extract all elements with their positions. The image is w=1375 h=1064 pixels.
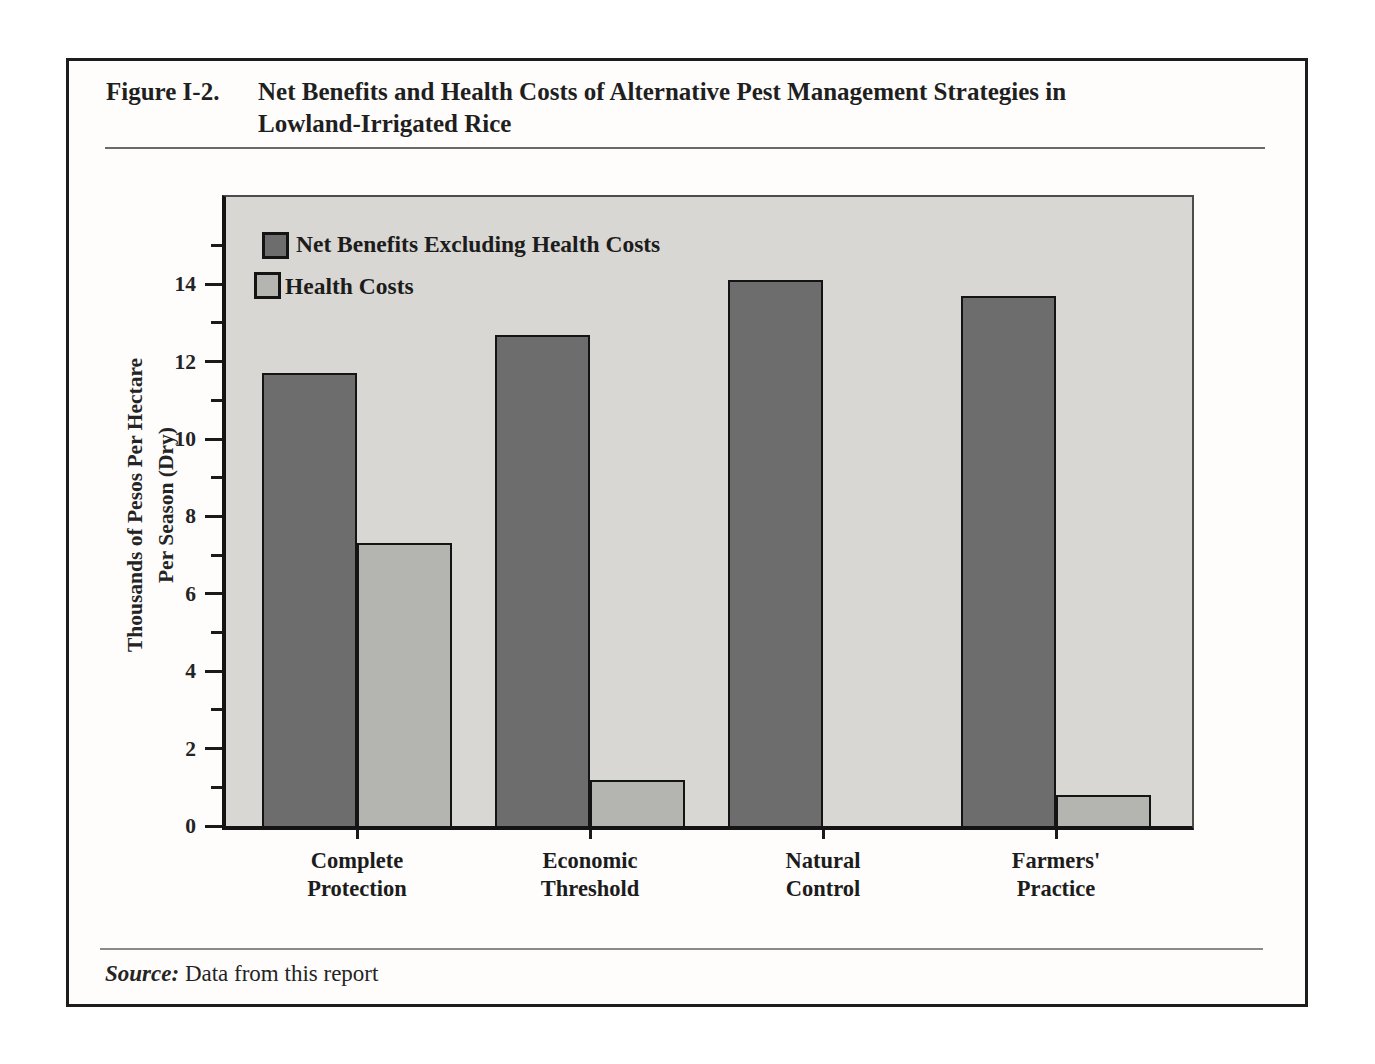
x-category-label-line: Threshold — [475, 875, 705, 903]
chart-layer: 02468101214CompleteProtectionEconomicThr… — [0, 0, 1375, 1064]
y-tick-minor — [211, 708, 222, 711]
x-category-label-3: Farmers'Practice — [941, 847, 1171, 903]
bar-net-benefits-0 — [262, 373, 357, 826]
y-tick-major — [205, 515, 222, 518]
source-label: Source: — [105, 961, 179, 986]
bar-net-benefits-3 — [961, 296, 1056, 826]
bar-net-benefits-2 — [728, 280, 823, 826]
y-tick-major — [205, 283, 222, 286]
x-category-label-line: Natural — [708, 847, 938, 875]
x-category-label-0: CompleteProtection — [242, 847, 472, 903]
bar-net-benefits-1 — [495, 335, 590, 826]
y-tick-major — [205, 592, 222, 595]
bar-health-costs-0 — [357, 543, 452, 826]
x-category-label-2: NaturalControl — [708, 847, 938, 903]
y-tick-label: 8 — [130, 502, 196, 530]
y-tick-minor — [211, 399, 222, 402]
y-tick-major — [205, 438, 222, 441]
y-tick-minor — [211, 631, 222, 634]
x-category-label-line: Practice — [941, 875, 1171, 903]
y-tick-major — [205, 670, 222, 673]
x-category-label-line: Farmers' — [941, 847, 1171, 875]
y-tick-minor — [211, 244, 222, 247]
source-text: Data from this report — [185, 961, 379, 986]
y-tick-minor — [211, 476, 222, 479]
x-tick-1 — [589, 830, 592, 839]
y-tick-label: 10 — [130, 425, 196, 453]
x-tick-0 — [356, 830, 359, 839]
y-tick-label: 14 — [130, 270, 196, 298]
x-category-label-line: Control — [708, 875, 938, 903]
y-tick-label: 4 — [130, 657, 196, 685]
y-tick-label: 12 — [130, 348, 196, 376]
bar-health-costs-3 — [1056, 795, 1151, 826]
x-tick-2 — [822, 830, 825, 839]
bar-health-costs-1 — [590, 780, 685, 826]
x-category-label-1: EconomicThreshold — [475, 847, 705, 903]
y-tick-major — [205, 360, 222, 363]
y-tick-label: 6 — [130, 580, 196, 608]
y-tick-major — [205, 825, 222, 828]
y-tick-minor — [211, 786, 222, 789]
y-tick-minor — [211, 321, 222, 324]
x-category-label-line: Protection — [242, 875, 472, 903]
scanned-figure-page: Figure I-2. Net Benefits and Health Cost… — [0, 0, 1375, 1064]
source-note: Source: Data from this report — [105, 961, 378, 987]
y-tick-label: 2 — [130, 735, 196, 763]
x-category-label-line: Economic — [475, 847, 705, 875]
y-tick-label: 0 — [130, 812, 196, 840]
y-tick-minor — [211, 554, 222, 557]
y-tick-major — [205, 747, 222, 750]
x-tick-3 — [1055, 830, 1058, 839]
x-category-label-line: Complete — [242, 847, 472, 875]
source-divider-rule — [100, 948, 1263, 950]
